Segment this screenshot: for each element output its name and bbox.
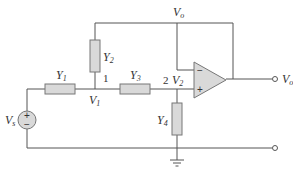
opamp-minus-sign: −: [197, 65, 203, 76]
label-y1: Y1: [56, 68, 67, 83]
wire-to-minus: [177, 23, 194, 70]
label-y4: Y4: [157, 113, 168, 128]
label-v1: V1: [89, 93, 100, 108]
circuit-diagram: − + + − Y1 Y2 Y3 Y4 1 V1 2 V2 Vo Vo Vs: [0, 0, 293, 173]
label-y2: Y2: [103, 50, 114, 65]
label-vo-terminal: Vo: [282, 72, 293, 87]
admittance-y3: [120, 84, 150, 94]
label-node1-number: 1: [103, 72, 109, 84]
output-terminal-icon: [273, 77, 278, 82]
label-vo-node: Vo: [173, 5, 184, 20]
label-node2-number: 2: [163, 74, 169, 86]
ground-icon: [170, 160, 184, 166]
label-v2: V2: [172, 73, 183, 88]
admittance-y1: [45, 84, 75, 94]
wire-feedback-top: [95, 23, 233, 79]
admittance-y2: [90, 40, 100, 72]
source-minus-sign: −: [24, 119, 30, 130]
label-y3: Y3: [130, 68, 141, 83]
ground-terminal-icon: [273, 146, 278, 151]
label-vs: Vs: [5, 113, 15, 128]
admittance-y4: [172, 103, 182, 135]
opamp-plus-sign: +: [197, 84, 203, 95]
